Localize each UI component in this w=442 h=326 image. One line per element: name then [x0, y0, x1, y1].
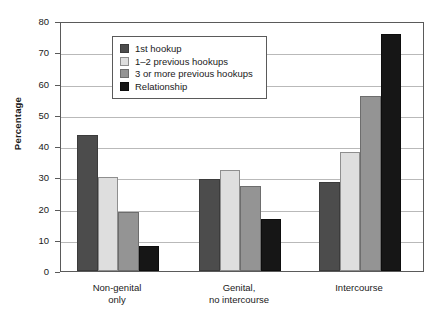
bar	[360, 96, 381, 271]
bar	[319, 182, 340, 271]
bar	[98, 177, 119, 271]
bar	[240, 186, 261, 271]
legend-swatch-icon	[120, 82, 129, 91]
bar	[340, 152, 361, 271]
x-axis-label-line: Genital,	[169, 282, 309, 294]
y-tick-mark	[55, 272, 60, 273]
legend-item-label: 1st hookup	[135, 43, 181, 54]
legend-item[interactable]: 1–2 previous hookups	[120, 55, 260, 67]
x-axis-category-label: Non-genitalonly	[47, 282, 187, 306]
y-tick-label: 0	[19, 267, 49, 277]
legend: 1st hookup1–2 previous hookups3 or more …	[112, 36, 267, 99]
y-tick-label: 70	[19, 48, 49, 58]
legend-swatch-icon	[120, 44, 129, 53]
x-axis-label-line: Intercourse	[289, 282, 429, 294]
legend-item[interactable]: 1st hookup	[120, 43, 260, 55]
x-axis-label-line: only	[47, 294, 187, 306]
legend-item-label: 1–2 previous hookups	[135, 56, 228, 67]
legend-item[interactable]: 3 or more previous hookups	[120, 68, 260, 80]
y-tick-label: 30	[19, 173, 49, 183]
y-tick-label: 20	[19, 205, 49, 215]
y-tick-label: 80	[19, 17, 49, 27]
y-tick-label: 60	[19, 80, 49, 90]
bar	[199, 179, 220, 271]
legend-item[interactable]: Relationship	[120, 80, 260, 92]
bar	[139, 246, 160, 271]
x-axis-category-label: Intercourse	[289, 282, 429, 294]
bar	[220, 170, 241, 271]
bar-chart: Percentage 01020304050607080 1st hookup1…	[0, 0, 442, 326]
legend-item-label: Relationship	[135, 81, 187, 92]
y-tick-label: 50	[19, 111, 49, 121]
bar	[381, 34, 402, 272]
legend-item-label: 3 or more previous hookups	[135, 68, 253, 79]
y-axis-title: Percentage	[12, 79, 23, 169]
bar	[118, 212, 139, 271]
legend-swatch-icon	[120, 69, 129, 78]
bar	[77, 135, 98, 271]
x-axis-label-line: no intercourse	[169, 294, 309, 306]
y-tick-label: 10	[19, 236, 49, 246]
y-tick-label: 40	[19, 142, 49, 152]
legend-swatch-icon	[120, 57, 129, 66]
x-axis-category-label: Genital,no intercourse	[169, 282, 309, 306]
x-axis-label-line: Non-genital	[47, 282, 187, 294]
bar	[261, 219, 282, 272]
